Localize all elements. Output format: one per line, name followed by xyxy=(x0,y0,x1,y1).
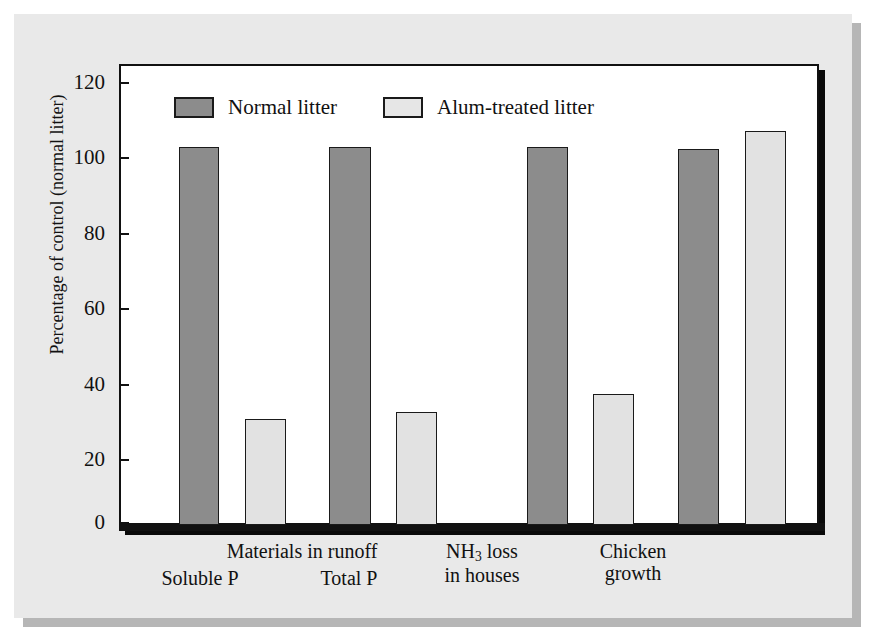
nh3-subscript: 3 xyxy=(475,549,482,564)
x-category-label-chicken-growth-line2: growth xyxy=(605,562,662,584)
figure-plate: 120 100 80 60 40 20 xyxy=(14,14,852,618)
y-tick-label-20: 20 xyxy=(47,449,105,470)
bar-soluble-p-alum-treated-litter[interactable] xyxy=(245,419,286,525)
legend-entry-alum-treated-litter[interactable]: Alum-treated litter xyxy=(383,95,594,120)
x-category-label-chicken-growth: Chicken growth xyxy=(543,540,723,585)
bar-chicken-growth-alum-treated-litter[interactable] xyxy=(745,131,786,525)
bar-chicken-growth-normal-litter[interactable] xyxy=(678,149,719,525)
x-category-label-chicken-growth-line1: Chicken xyxy=(600,540,667,562)
figure-container: 120 100 80 60 40 20 xyxy=(0,0,876,643)
bar-soluble-p-normal-litter[interactable] xyxy=(179,147,219,525)
legend-swatch-normal-litter xyxy=(174,97,214,118)
legend-label-normal-litter: Normal litter xyxy=(228,95,337,120)
x-category-label-nh3-loss-line2: in houses xyxy=(445,564,520,586)
bars-layer xyxy=(119,64,819,525)
x-category-label-nh3-loss-line1: NH xyxy=(446,540,475,562)
legend: Normal litter Alum-treated litter xyxy=(174,95,594,120)
legend-swatch-alum-treated-litter xyxy=(383,97,423,118)
y-axis-label: Percentage of control (normal litter) xyxy=(47,10,68,440)
bar-nh3-loss-normal-litter[interactable] xyxy=(527,147,568,525)
x-category-label-nh3-loss-rest: loss xyxy=(482,540,518,562)
legend-label-alum-treated-litter: Alum-treated litter xyxy=(437,95,594,120)
legend-entry-normal-litter[interactable]: Normal litter xyxy=(174,95,337,120)
y-tick-label-0: 0 xyxy=(47,512,105,533)
bar-total-p-normal-litter[interactable] xyxy=(329,147,371,525)
bar-nh3-loss-alum-treated-litter[interactable] xyxy=(593,394,634,525)
bar-total-p-alum-treated-litter[interactable] xyxy=(396,412,437,525)
bar-chart: 120 100 80 60 40 20 xyxy=(14,14,852,618)
